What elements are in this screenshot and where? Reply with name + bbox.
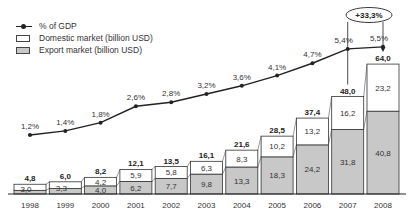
gdp-point-icon	[275, 74, 279, 78]
domestic-label: 8,3	[236, 155, 248, 164]
year-label: 2001	[127, 201, 145, 210]
total-label: 64,0	[375, 54, 391, 63]
export-connector	[258, 157, 261, 167]
export-label: 18,3	[269, 171, 285, 180]
market-chart: % of GDP Domestic market (billion USD) E…	[0, 0, 409, 217]
gdp-label: 1,4%	[56, 118, 74, 127]
total-connector	[328, 97, 331, 119]
domestic-label: 10,2	[269, 142, 285, 151]
gdp-label: 1,8%	[91, 110, 109, 119]
total-connector	[117, 169, 120, 177]
total-connector	[81, 177, 84, 181]
domestic-label: 6,3	[201, 164, 213, 173]
export-label: 7,7	[166, 182, 178, 191]
year-label: 2007	[339, 201, 357, 210]
legend-gdp-label: % of GDP	[39, 21, 77, 31]
total-connector	[258, 136, 261, 150]
year-label: 1999	[56, 201, 74, 210]
gdp-point-icon	[63, 129, 67, 133]
total-label: 37,4	[305, 108, 321, 117]
gdp-point-icon	[99, 121, 103, 125]
total-label: 48,0	[340, 87, 356, 96]
year-label: 1998	[21, 201, 39, 210]
year-label: 2005	[268, 201, 286, 210]
export-label: 31,8	[340, 158, 356, 167]
total-connector	[46, 182, 49, 184]
total-connector	[364, 64, 367, 96]
gdp-label: 1,2%	[21, 122, 39, 131]
export-label: 9,8	[201, 180, 213, 189]
export-label: 13,3	[234, 177, 250, 186]
export-connector	[187, 174, 190, 178]
legend: % of GDP Domestic market (billion USD) E…	[16, 20, 153, 56]
domestic-label: 3,3	[56, 184, 68, 193]
domestic-label: 23,2	[375, 84, 391, 93]
gdp-line	[30, 47, 383, 135]
export-swatch-icon	[16, 47, 30, 54]
export-connector	[117, 181, 120, 185]
total-label: 21,6	[234, 140, 250, 149]
gdp-label: 4,7%	[303, 50, 321, 59]
gdp-label: 5,5%	[370, 34, 388, 43]
gdp-point-icon	[240, 84, 244, 88]
domestic-label: 13,2	[305, 127, 321, 136]
total-label: 12,1	[128, 159, 144, 168]
export-label: 6,2	[130, 184, 142, 193]
export-connector	[152, 178, 155, 181]
gdp-point-icon	[169, 100, 173, 104]
legend-gdp: % of GDP	[16, 20, 153, 32]
total-label: 28,5	[269, 126, 285, 135]
year-label: 2004	[233, 201, 251, 210]
total-connector	[187, 161, 190, 166]
gdp-point-icon	[310, 61, 314, 65]
arrow-down-icon	[381, 47, 386, 52]
gdp-label: 3,2%	[197, 81, 215, 90]
growth-label: +33,3%	[355, 11, 382, 20]
export-label: 40,8	[375, 149, 391, 158]
domestic-swatch-icon	[16, 35, 30, 42]
export-label: 24,2	[305, 165, 321, 174]
legend-export-label: Export market (billion USD)	[39, 45, 142, 55]
total-label: 8,2	[95, 167, 107, 176]
total-connector	[223, 150, 226, 161]
legend-export: Export market (billion USD)	[16, 44, 153, 56]
gdp-label: 4,1%	[268, 63, 286, 72]
total-label: 13,5	[163, 157, 179, 166]
gdp-label: 2,6%	[127, 93, 145, 102]
export-connector	[364, 111, 367, 129]
domestic-label: 5,8	[166, 168, 178, 177]
gdp-point-icon	[134, 104, 138, 108]
year-label: 2003	[198, 201, 216, 210]
gdp-label: 5,4%	[335, 36, 353, 45]
domestic-label: 16,2	[340, 109, 356, 118]
domestic-label: 5,9	[130, 171, 142, 180]
total-connector	[152, 167, 155, 170]
gdp-label: 3,6%	[233, 73, 251, 82]
gdp-point-icon	[205, 92, 209, 96]
domestic-label: 3,0	[20, 185, 32, 194]
year-label: 2000	[92, 201, 110, 210]
year-label: 2002	[162, 201, 180, 210]
total-label: 6,0	[60, 172, 72, 181]
total-label: 16,1	[199, 151, 215, 160]
year-label: 2006	[304, 201, 322, 210]
legend-domestic: Domestic market (billion USD)	[16, 32, 153, 44]
export-connector	[223, 167, 226, 174]
legend-domestic-label: Domestic market (billion USD)	[39, 33, 153, 43]
total-label: 4,8	[24, 174, 36, 183]
export-connector	[328, 129, 331, 144]
line-marker-icon	[16, 23, 32, 30]
gdp-label: 2,8%	[162, 89, 180, 98]
gdp-point-icon	[28, 133, 32, 137]
year-label: 2008	[374, 201, 392, 210]
total-connector	[293, 118, 296, 136]
export-connector	[293, 145, 296, 157]
